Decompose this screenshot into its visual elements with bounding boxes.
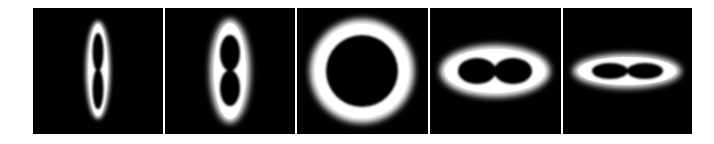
figure-strip: Five-panel sequence of glowing white int… (0, 0, 714, 144)
panel-3-circular-ring (297, 8, 428, 134)
panel-5-horizontal-figure-eight-narrow (563, 8, 692, 134)
panel-1-vertical-figure-eight-narrow (33, 8, 163, 134)
panel-2-vertical-figure-eight-wide (165, 8, 295, 134)
panel-4-horizontal-figure-eight-wide (430, 8, 561, 134)
